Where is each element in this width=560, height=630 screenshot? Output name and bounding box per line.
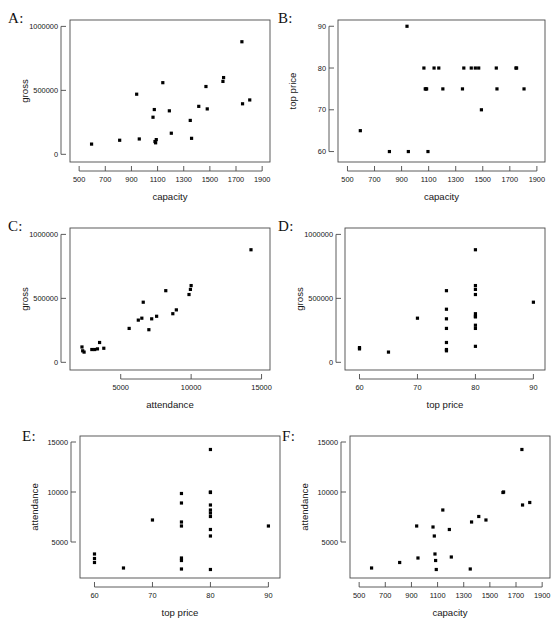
- x-tick-label: 700: [379, 591, 391, 600]
- x-tick-label: 60: [90, 591, 98, 600]
- data-point: [387, 350, 390, 353]
- data-point: [267, 524, 270, 527]
- x-axis-label: top price: [427, 399, 464, 410]
- data-point: [118, 139, 121, 142]
- x-tick-label: 1100: [430, 591, 446, 600]
- data-point: [426, 150, 429, 153]
- data-point: [474, 248, 477, 251]
- x-tick-label: 1900: [534, 591, 550, 600]
- data-point: [520, 448, 523, 451]
- data-point: [470, 66, 473, 69]
- data-point: [445, 327, 448, 330]
- plot-frame: [70, 20, 270, 162]
- data-point: [140, 317, 143, 320]
- panel-letter-b: B:: [278, 10, 293, 27]
- x-tick-label: 1300: [455, 591, 471, 600]
- x-tick-label: 90: [264, 591, 272, 600]
- scatter-panel-f: 5000100001500050070090011001300150017001…: [288, 420, 560, 626]
- x-tick-label: 1300: [175, 175, 191, 184]
- x-tick-label: 1300: [447, 175, 463, 184]
- y-axis-label: top price: [287, 73, 298, 110]
- data-point: [474, 315, 477, 318]
- data-point: [477, 66, 480, 69]
- data-point: [171, 312, 174, 315]
- data-point: [209, 508, 212, 511]
- x-tick-label: 900: [395, 175, 407, 184]
- scatter-plot-c: 0500000100000050001000015000attendancegr…: [8, 212, 280, 418]
- x-tick-label: 1700: [508, 591, 524, 600]
- data-point: [240, 40, 243, 43]
- panel-letter-d: D:: [278, 218, 294, 235]
- data-point: [445, 349, 448, 352]
- data-point: [209, 528, 212, 531]
- data-points: [358, 248, 535, 354]
- data-point: [445, 289, 448, 292]
- data-point: [433, 534, 436, 537]
- data-point: [137, 319, 140, 322]
- scatter-panel-b: 6070809050070090011001300150017001900cap…: [283, 4, 555, 210]
- data-point: [435, 568, 438, 571]
- x-tick-label: 90: [529, 383, 537, 392]
- scatter-panel-c: 0500000100000050001000015000attendancegr…: [8, 212, 280, 418]
- x-tick-label: 500: [73, 175, 85, 184]
- data-point: [197, 105, 200, 108]
- x-tick-label: 70: [148, 591, 156, 600]
- data-point: [515, 66, 518, 69]
- data-point: [147, 328, 150, 331]
- data-point: [388, 150, 391, 153]
- y-tick-label: 10000: [47, 488, 68, 497]
- data-point: [161, 81, 164, 84]
- y-tick-label: 5000: [52, 538, 68, 547]
- scatter-plot-d: 0500000100000060708090top pricegross: [283, 212, 555, 418]
- data-point: [175, 308, 178, 311]
- data-point: [209, 515, 212, 518]
- x-axis-label: capacity: [432, 607, 467, 618]
- x-tick-label: 500: [353, 591, 365, 600]
- data-point: [425, 87, 428, 90]
- data-point: [433, 552, 436, 555]
- y-axis-label: gross: [294, 287, 305, 311]
- data-point: [416, 556, 419, 559]
- data-point: [445, 317, 448, 320]
- data-point: [189, 288, 192, 291]
- y-tick-label: 80: [318, 64, 326, 73]
- data-point: [474, 345, 477, 348]
- data-point: [416, 317, 419, 320]
- data-point: [431, 525, 434, 528]
- data-point: [495, 66, 498, 69]
- data-point: [407, 150, 410, 153]
- data-point: [358, 346, 361, 349]
- data-point: [190, 137, 193, 140]
- y-tick-label: 90: [318, 22, 326, 31]
- data-points: [359, 25, 526, 154]
- y-axis-label: gross: [19, 287, 30, 311]
- y-tick-label: 0: [54, 150, 58, 159]
- data-points: [80, 248, 252, 354]
- data-point: [462, 66, 465, 69]
- data-point: [180, 559, 183, 562]
- data-point: [93, 348, 96, 351]
- y-tick-label: 15000: [317, 438, 338, 447]
- x-axis-label: attendance: [146, 399, 193, 410]
- data-point: [122, 566, 125, 569]
- data-point: [180, 520, 183, 523]
- data-point: [190, 284, 193, 287]
- data-point: [204, 85, 207, 88]
- scatterplot-figure-grid: 0500000100000050070090011001300150017001…: [0, 0, 560, 630]
- data-point: [168, 109, 171, 112]
- data-point: [102, 347, 105, 350]
- plot-frame: [338, 20, 545, 162]
- data-point: [474, 324, 477, 327]
- x-tick-label: 10000: [181, 383, 202, 392]
- data-point: [222, 76, 225, 79]
- data-point: [82, 350, 85, 353]
- x-tick-label: 900: [125, 175, 137, 184]
- y-tick-label: 500000: [308, 294, 333, 303]
- data-point: [96, 347, 99, 350]
- data-point: [187, 293, 190, 296]
- y-tick-label: 70: [318, 105, 326, 114]
- data-point: [128, 327, 131, 330]
- x-tick-label: 60: [355, 383, 363, 392]
- data-point: [470, 520, 473, 523]
- data-point: [248, 98, 251, 101]
